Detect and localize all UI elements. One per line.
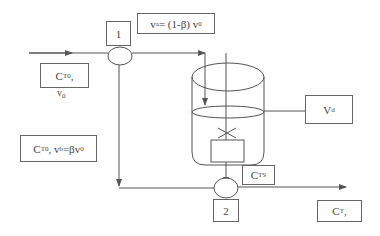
tank-outlet-label: CTS [242, 165, 275, 185]
tank-out-c: C [251, 169, 258, 181]
feed-suffix: , [71, 70, 74, 82]
mixer-1-label: 1 [106, 21, 131, 46]
feed-flow-sub: 0 [62, 92, 66, 100]
feed-c: C [56, 70, 63, 82]
outlet-label: CT, [317, 200, 362, 222]
feed-flow-label: v0 [57, 87, 66, 100]
reactor-internal-box [211, 140, 244, 162]
volume-v: V [323, 104, 331, 116]
bypass-label: CT0, vb=βv0 [20, 135, 97, 162]
stream-a-label: va= (1-β) v0 [137, 13, 215, 34]
splitter-1 [108, 47, 132, 65]
mixer-1-number: 1 [116, 28, 122, 40]
mixer-2 [214, 178, 238, 198]
bypass-mid: , v [48, 143, 59, 155]
bypass-expr: =βv [63, 143, 80, 155]
bypass-c: C [33, 143, 40, 155]
liquid-level [192, 106, 264, 118]
bypass-c-sub: T0 [41, 145, 49, 153]
stream-a-expr: = (1-β) v [159, 18, 198, 30]
reactor-tank [192, 53, 264, 165]
mixer-2-number: 2 [223, 205, 229, 217]
outlet-suffix: , [344, 205, 347, 217]
tank-out-sub: TS [258, 171, 266, 179]
bypass-expr-sub: 0 [80, 145, 84, 153]
mixer-2-label: 2 [213, 199, 239, 222]
volume-label: Vd [305, 95, 353, 124]
feed-c-sub: T0 [63, 72, 71, 80]
stream-a-expr-sub: 0 [198, 20, 202, 28]
outlet-c: C [332, 205, 339, 217]
volume-sub: d [331, 106, 335, 114]
feed-label: CT0, [40, 63, 89, 88]
